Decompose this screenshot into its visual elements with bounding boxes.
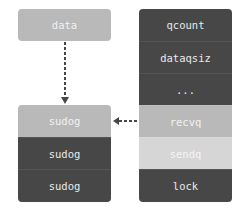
sudog-list: sudog sudog sudog [18,105,111,202]
field-lock: lock [139,169,232,202]
field-qcount: qcount [139,9,232,41]
data-cell: data [18,9,111,41]
field-ellipsis: ... [139,73,232,105]
sudog-item: sudog [18,169,111,202]
sudog-item: sudog [18,137,111,169]
sudog-item: sudog [18,105,111,137]
arrow-recvq-to-sudog [111,114,139,128]
data-box: data [18,9,111,41]
field-dataqsiz: dataqsiz [139,41,232,73]
hchan-struct: qcount dataqsiz ... recvq sendq lock [139,9,232,202]
arrow-data-to-sudog [58,41,72,105]
field-sendq: sendq [139,137,232,169]
field-recvq: recvq [139,105,232,137]
